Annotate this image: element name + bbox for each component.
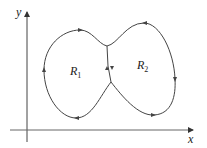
arrow-icon <box>78 28 83 32</box>
orientation-arrows <box>42 21 177 120</box>
arrow-icon <box>110 66 114 70</box>
arrow-icon <box>42 67 46 72</box>
arrow-icon <box>142 21 147 25</box>
boundary-curve <box>44 23 175 118</box>
region-label-r1: R1 <box>69 64 81 80</box>
arrow-icon <box>151 113 156 117</box>
arrow-icon <box>173 77 177 82</box>
arrow-icon <box>74 116 79 120</box>
x-axis-label: x <box>187 132 194 146</box>
y-axis-label: y <box>15 5 22 19</box>
dividing-curve <box>107 46 111 82</box>
region-label-r2: R2 <box>136 58 148 74</box>
region-diagram: y x R1 R2 <box>0 0 207 148</box>
